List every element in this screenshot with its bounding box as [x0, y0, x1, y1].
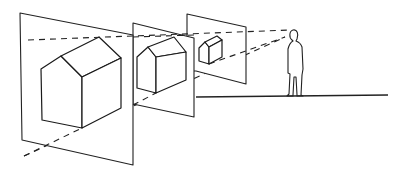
picture-plane-back	[187, 14, 246, 84]
picture-plane-middle	[133, 23, 194, 117]
picture-plane-front	[20, 13, 133, 165]
diagram-canvas	[0, 0, 404, 172]
perspective-diagram: Perspective projection: picture planes b…	[0, 0, 404, 172]
observer-person-icon	[287, 30, 303, 96]
